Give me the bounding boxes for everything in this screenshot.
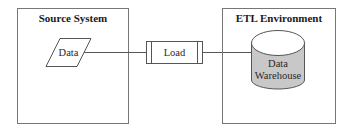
cylinder-top (252, 31, 305, 56)
etl-environment-title: ETL Environment (236, 12, 323, 24)
warehouse-label-line1: Data (268, 58, 288, 69)
load-label: Load (164, 47, 186, 58)
warehouse-label-line2: Warehouse (255, 70, 302, 81)
data-warehouse: Data Warehouse (252, 31, 305, 90)
etl-diagram: Source System Data Load ETL Environment … (0, 0, 352, 133)
source-system-title: Source System (39, 12, 108, 24)
data-node-label: Data (59, 47, 79, 58)
load-process: Load (147, 42, 203, 64)
